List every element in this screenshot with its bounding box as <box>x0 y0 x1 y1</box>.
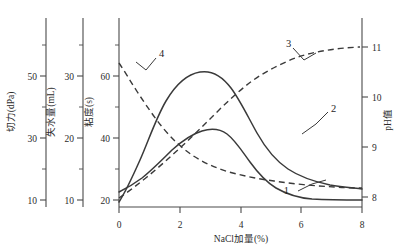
axis-viscosity: 60 40 20 0 粘度(s) <box>83 18 122 230</box>
chart-svg: 50 30 10 切力(dPa) 30 20 10 失水量(mL) <box>0 0 400 246</box>
ticklabel-ph-11: 11 <box>372 43 381 53</box>
curve-label-2: 2 <box>331 103 336 114</box>
ticklabel-ph-8: 8 <box>372 193 377 203</box>
ticklabel-visc-0: 0 <box>117 220 122 230</box>
curve-label-2-leader <box>302 112 328 134</box>
curve-label-2-group: 2 <box>302 103 336 134</box>
ticklabel-x-4: 4 <box>239 220 244 230</box>
axis-x-nacl: 2 4 6 8 NaCl加量(%) <box>119 207 365 245</box>
curve-label-3-group: 3 <box>286 38 316 60</box>
ticklabel-shear-10: 10 <box>28 196 38 206</box>
axis-title-viscosity: 粘度(s) <box>83 97 95 127</box>
curve-1-viscosity <box>119 129 362 200</box>
axis-shear-force: 50 30 10 切力(dPa) <box>5 18 46 207</box>
ticklabel-ph-9: 9 <box>372 143 377 153</box>
curve-2-shear-force <box>119 72 362 202</box>
curve-label-3: 3 <box>286 38 291 49</box>
ticklabel-x-8: 8 <box>360 220 365 230</box>
axis-title-ph: pH值 <box>382 109 393 131</box>
axis-title-shear-force: 切力(dPa) <box>5 92 17 133</box>
axis-title-x-nacl: NaCl加量(%) <box>214 234 268 245</box>
ticklabel-visc-60: 60 <box>101 72 111 82</box>
curve-label-4-leader <box>136 58 156 70</box>
ticklabel-visc-20: 20 <box>101 196 111 206</box>
ticklabel-x-6: 6 <box>299 220 304 230</box>
ticklabel-shear-30: 30 <box>28 134 38 144</box>
ticklabel-visc-40: 40 <box>101 134 111 144</box>
ticklabel-water-30: 30 <box>65 72 75 82</box>
axis-title-water-loss: 失水量(mL) <box>45 87 57 137</box>
axis-water-loss: 30 20 10 失水量(mL) <box>45 18 83 207</box>
curve-label-4-group: 4 <box>136 48 165 70</box>
ticklabel-water-20: 20 <box>65 134 75 144</box>
axis-ph: 11 10 9 8 pH值 <box>362 18 393 207</box>
curve-label-1: 1 <box>284 185 289 196</box>
curve-4-water-loss <box>119 63 362 188</box>
ticklabel-water-10: 10 <box>65 196 75 206</box>
curve-label-4: 4 <box>159 48 165 59</box>
curve-label-3-leader <box>293 48 316 60</box>
chart-figure: 50 30 10 切力(dPa) 30 20 10 失水量(mL) <box>0 0 400 246</box>
ticklabel-shear-50: 50 <box>28 72 38 82</box>
ticklabel-x-2: 2 <box>178 220 183 230</box>
ticklabel-ph-10: 10 <box>372 93 382 103</box>
